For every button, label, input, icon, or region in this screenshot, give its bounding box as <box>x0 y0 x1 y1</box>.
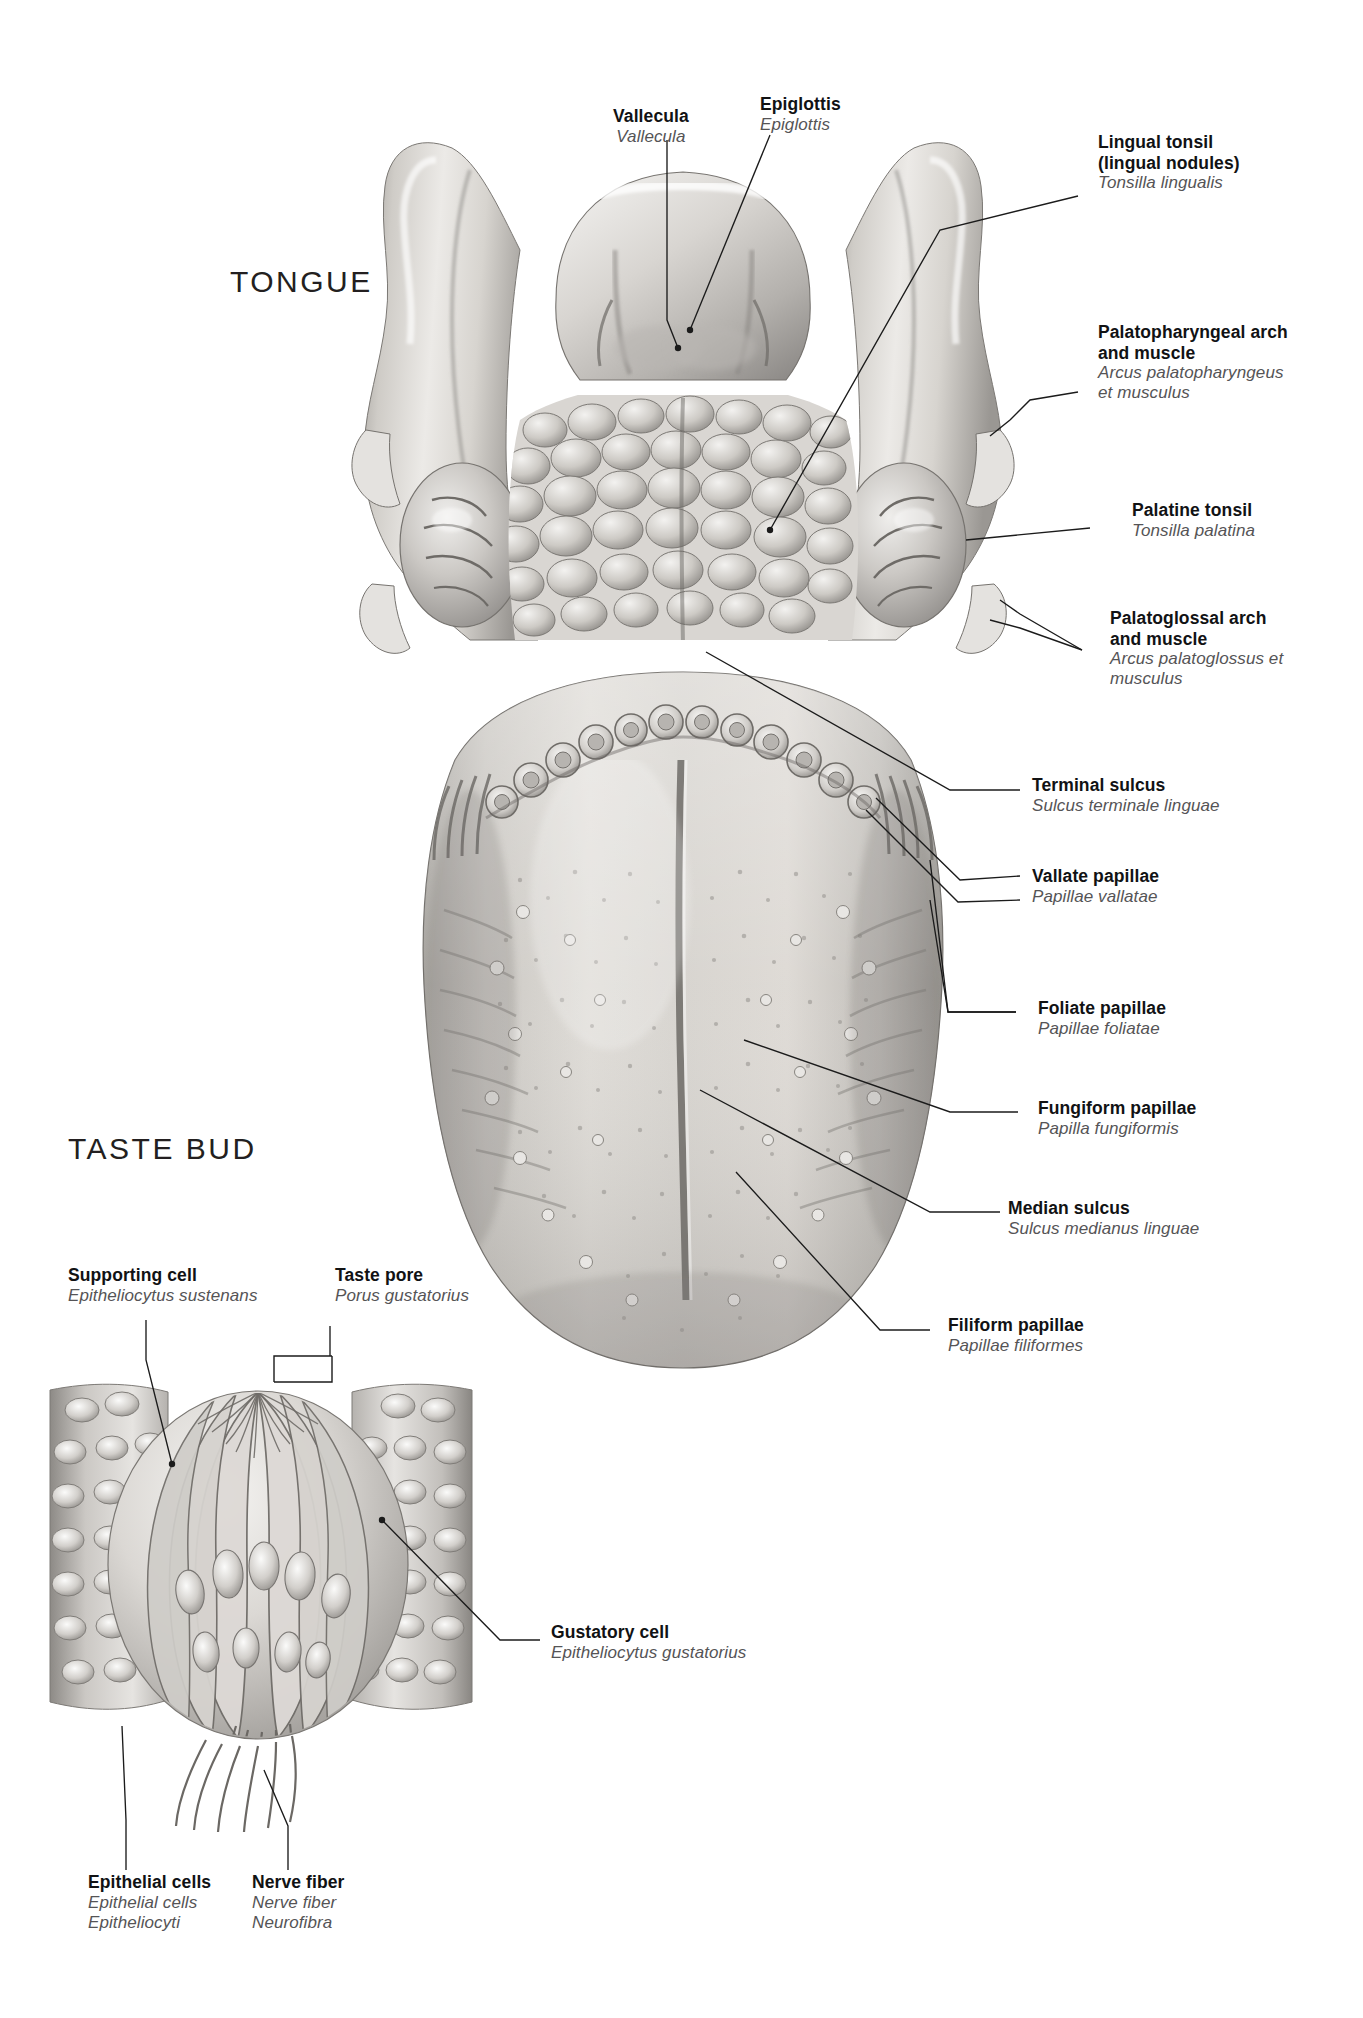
label-vallate-papillae: Vallate papillae Papillae vallatae <box>1032 866 1159 907</box>
label-palatine-tonsil-en: Palatine tonsil <box>1132 500 1255 521</box>
label-supporting-cell: Supporting cell Epitheliocytus sustenans <box>68 1265 258 1306</box>
label-lingual-tonsil: Lingual tonsil(lingual nodules) Tonsilla… <box>1098 132 1240 193</box>
label-gustatory-cell-la: Epitheliocytus gustatorius <box>551 1643 746 1663</box>
label-epiglottis: Epiglottis Epiglottis <box>760 94 841 135</box>
label-epithelial-cells: Epithelial cells Epithelial cellsEpithel… <box>88 1872 211 1933</box>
label-palatine-tonsil: Palatine tonsil Tonsilla palatina <box>1132 500 1255 541</box>
label-terminal-sulcus-la: Sulcus terminale linguae <box>1032 796 1220 816</box>
label-gustatory-cell-en: Gustatory cell <box>551 1622 746 1643</box>
label-lingual-tonsil-la: Tonsilla lingualis <box>1098 173 1240 193</box>
palatine-tonsil-right <box>842 463 966 627</box>
label-epithelial-cells-en: Epithelial cells <box>88 1872 211 1893</box>
label-palatoglossal-arch-la: Arcus palatoglossus etmusculus <box>1110 649 1283 689</box>
label-foliate-papillae-en: Foliate papillae <box>1038 998 1166 1019</box>
label-filiform-papillae-en: Filiform papillae <box>948 1315 1084 1336</box>
palatine-tonsil-left <box>400 463 524 627</box>
label-nerve-fiber-en: Nerve fiber <box>252 1872 345 1893</box>
label-terminal-sulcus-en: Terminal sulcus <box>1032 775 1220 796</box>
label-filiform-papillae-la: Papillae filiformes <box>948 1336 1084 1356</box>
label-taste-pore-la: Porus gustatorius <box>335 1286 469 1306</box>
label-palatoglossal-arch: Palatoglossal archand muscle Arcus palat… <box>1110 608 1283 689</box>
label-median-sulcus-la: Sulcus medianus linguae <box>1008 1219 1199 1239</box>
label-fungiform-papillae-en: Fungiform papillae <box>1038 1098 1196 1119</box>
label-taste-pore: Taste pore Porus gustatorius <box>335 1265 469 1306</box>
taste-bud-diagram <box>50 1356 472 1838</box>
label-median-sulcus: Median sulcus Sulcus medianus linguae <box>1008 1198 1199 1239</box>
label-vallecula: Vallecula Vallecula <box>613 106 689 147</box>
label-fungiform-papillae: Fungiform papillae Papilla fungiformis <box>1038 1098 1196 1139</box>
label-epiglottis-en: Epiglottis <box>760 94 841 115</box>
label-foliate-papillae-la: Papillae foliatae <box>1038 1019 1166 1039</box>
label-epiglottis-la: Epiglottis <box>760 115 841 135</box>
tongue-body <box>423 672 943 1388</box>
label-vallate-papillae-en: Vallate papillae <box>1032 866 1159 887</box>
label-filiform-papillae: Filiform papillae Papillae filiformes <box>948 1315 1084 1356</box>
label-terminal-sulcus: Terminal sulcus Sulcus terminale linguae <box>1032 775 1220 816</box>
label-vallecula-en: Vallecula <box>613 106 689 127</box>
label-vallate-papillae-la: Papillae vallatae <box>1032 887 1159 907</box>
label-lingual-tonsil-en: Lingual tonsil(lingual nodules) <box>1098 132 1240 173</box>
nerve-fiber-bundle <box>176 1736 296 1832</box>
lingual-tonsil-nodules <box>493 395 862 645</box>
label-palatoglossal-arch-en: Palatoglossal archand muscle <box>1110 608 1283 649</box>
section-title-tongue: TONGUE <box>230 265 373 299</box>
label-median-sulcus-en: Median sulcus <box>1008 1198 1199 1219</box>
label-supporting-cell-la: Epitheliocytus sustenans <box>68 1286 258 1306</box>
label-palatopharyngeal-arch-la: Arcus palatopharyngeuset musculus <box>1098 363 1288 403</box>
figure-canvas: TONGUE TASTE BUD Vallecula Vallecula Epi… <box>0 0 1363 2018</box>
label-palatopharyngeal-arch: Palatopharyngeal archand muscle Arcus pa… <box>1098 322 1288 403</box>
label-nerve-fiber-la: Nerve fiberNeurofibra <box>252 1893 345 1933</box>
label-nerve-fiber: Nerve fiber Nerve fiberNeurofibra <box>252 1872 345 1933</box>
taste-pore-bracket <box>274 1356 332 1382</box>
label-supporting-cell-en: Supporting cell <box>68 1265 258 1286</box>
label-palatopharyngeal-arch-en: Palatopharyngeal archand muscle <box>1098 322 1288 363</box>
label-taste-pore-en: Taste pore <box>335 1265 469 1286</box>
label-palatine-tonsil-la: Tonsilla palatina <box>1132 521 1255 541</box>
section-title-taste-bud: TASTE BUD <box>68 1132 257 1166</box>
label-epithelial-cells-la: Epithelial cellsEpitheliocyti <box>88 1893 211 1933</box>
label-fungiform-papillae-la: Papilla fungiformis <box>1038 1119 1196 1139</box>
label-vallecula-la: Vallecula <box>613 127 689 147</box>
label-foliate-papillae: Foliate papillae Papillae foliatae <box>1038 998 1166 1039</box>
label-gustatory-cell: Gustatory cell Epitheliocytus gustatoriu… <box>551 1622 746 1663</box>
